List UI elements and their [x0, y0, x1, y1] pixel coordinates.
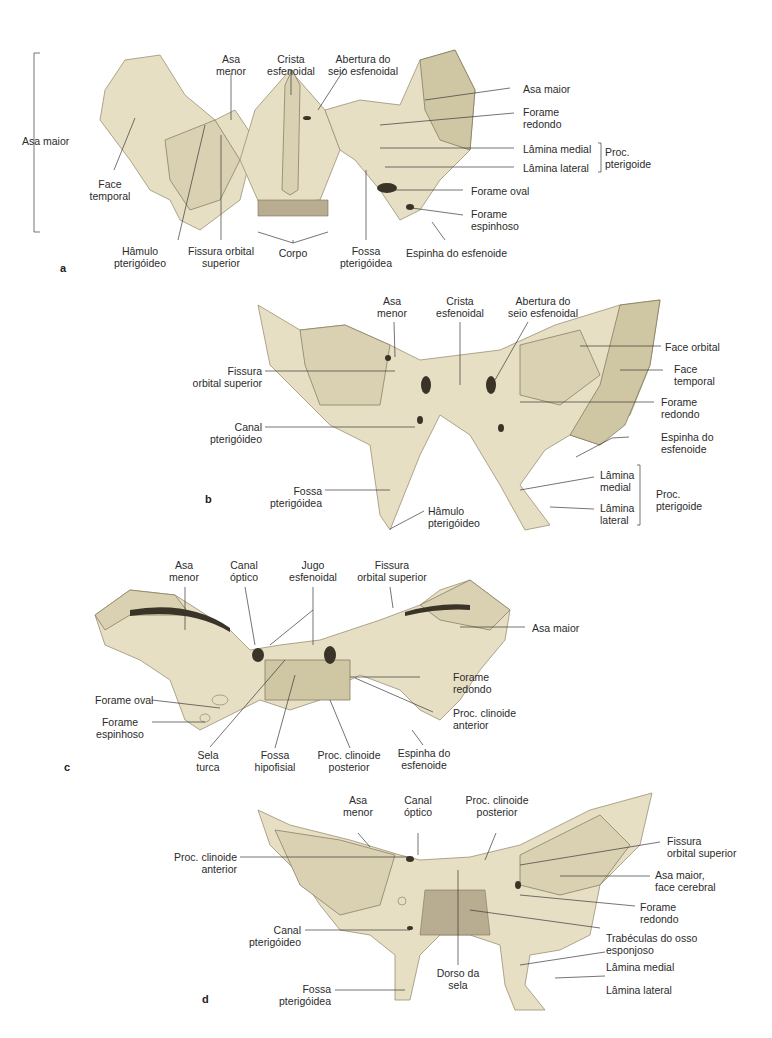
label-proc-pterigoide: Proc. pterigoide — [605, 146, 651, 170]
label-crista-esfenoidal: Crista esfenoidal — [436, 295, 484, 319]
label-face-orbital: Face orbital — [665, 341, 720, 353]
label-canal-optico: Canal óptico — [230, 559, 258, 583]
label-lamina-lateral: Lâmina lateral — [606, 984, 672, 996]
label-forame-oval: Forame oval — [95, 694, 153, 706]
label-fossa-pterigoidea: Fossa pterigóidea — [340, 245, 392, 269]
label-canal-pterigoideo: Canal pterigóideo — [249, 924, 301, 948]
label-asa-menor: Asa menor — [377, 295, 407, 319]
label-fissura-orbital: Fissura orbital superior — [667, 835, 736, 859]
label-proc-clinoide-posterior: Proc. clinoide posterior — [317, 749, 380, 773]
label-fissura-orbital: Fissura orbital superior — [188, 245, 254, 269]
label-dorso-sela: Dorso da sela — [437, 967, 480, 991]
label-asa-maior-bracket: Asa maior — [22, 135, 69, 147]
label-asa-menor: Asa menor — [169, 559, 199, 583]
panel-c: Asa menor Canal óptico Jugo esfenoidal F… — [0, 550, 772, 780]
label-lamina-medial: Lâmina medial — [523, 143, 591, 155]
label-hamulo: Hâmulo pterigóideo — [428, 505, 480, 529]
label-forame-espinhoso: Forame espinhoso — [471, 208, 519, 232]
label-asa-menor: Asa menor — [216, 53, 246, 77]
label-proc-pterigoide: Proc. pterigoide — [656, 488, 702, 512]
label-asa-menor: Asa menor — [343, 794, 373, 818]
panel-letter-c: c — [64, 761, 70, 773]
panel-letter-a: a — [60, 262, 66, 274]
panel-letter-d: d — [202, 993, 209, 1005]
label-abertura-seio: Abertura do seio esfenoidal — [328, 53, 398, 77]
label-asa-maior: Asa maior — [532, 622, 579, 634]
label-hamulo: Hâmulo pterigóideo — [114, 245, 166, 269]
panel-d: Asa menor Canal óptico Proc. clinoide po… — [0, 785, 772, 1038]
label-corpo: Corpo — [279, 247, 308, 259]
label-forame-redondo: Forame redondo — [523, 106, 562, 130]
sphenoid-anterior-illustration — [0, 0, 772, 275]
label-espinha-esfenoide: Espinha do esfenoide — [661, 431, 714, 455]
label-forame-redondo: Forame redondo — [640, 901, 679, 925]
label-abertura-seio: Abertura do seio esfenoidal — [508, 295, 578, 319]
label-jugo-esfenoidal: Jugo esfenoidal — [289, 559, 337, 583]
label-trabeculas: Trabéculas do osso esponjoso — [606, 932, 697, 956]
label-proc-clinoide-anterior: Proc. clinoide anterior — [453, 707, 516, 731]
panel-a: Asa maior Face temporal Asa menor Crista… — [0, 0, 772, 275]
label-asa-maior: Asa maior — [523, 83, 570, 95]
label-proc-clinoide-posterior: Proc. clinoide posterior — [465, 794, 528, 818]
label-proc-clinoide-anterior: Proc. clinoide anterior — [174, 851, 237, 875]
label-face-temporal: Face temporal — [674, 363, 715, 387]
panel-b: Asa menor Crista esfenoidal Abertura do … — [0, 285, 772, 535]
label-forame-redondo: Forame redondo — [661, 396, 700, 420]
label-canal-optico: Canal óptico — [404, 794, 432, 818]
label-crista-esfenoidal: Crista esfenoidal — [267, 53, 315, 77]
label-forame-espinhoso: Forame espinhoso — [96, 716, 144, 740]
label-espinha-esfenoide: Espinha do esfenoide — [406, 247, 507, 259]
label-asa-maior-face-cerebral: Asa maior, face cerebral — [655, 869, 716, 893]
label-forame-redondo: Forame redondo — [453, 671, 492, 695]
label-lamina-lateral: Lâmina lateral — [600, 502, 634, 526]
label-fossa-pterigoidea: Fossa pterigóidea — [270, 485, 322, 509]
label-forame-oval: Forame oval — [471, 185, 529, 197]
label-fossa-pterigoidea: Fossa pterigóidea — [279, 983, 331, 1007]
label-sela-turca: Sela turca — [196, 749, 219, 773]
label-fissura-orbital: Fissura orbital superior — [357, 559, 426, 583]
label-lamina-lateral: Lâmina lateral — [523, 162, 589, 174]
label-face-temporal: Face temporal — [90, 178, 131, 202]
sphenoid-superior-illustration — [0, 550, 772, 780]
label-fissura-orbital: Fissura orbital superior — [193, 365, 262, 389]
panel-letter-b: b — [205, 493, 212, 505]
label-fossa-hipofisial: Fossa hipofisial — [255, 749, 296, 773]
label-canal-pterigoideo: Canal pterigóideo — [210, 421, 262, 445]
label-lamina-medial: Lâmina medial — [600, 469, 634, 493]
label-lamina-medial: Lâmina medial — [606, 961, 674, 973]
label-espinha-esfenoide: Espinha do esfenoide — [398, 747, 451, 771]
